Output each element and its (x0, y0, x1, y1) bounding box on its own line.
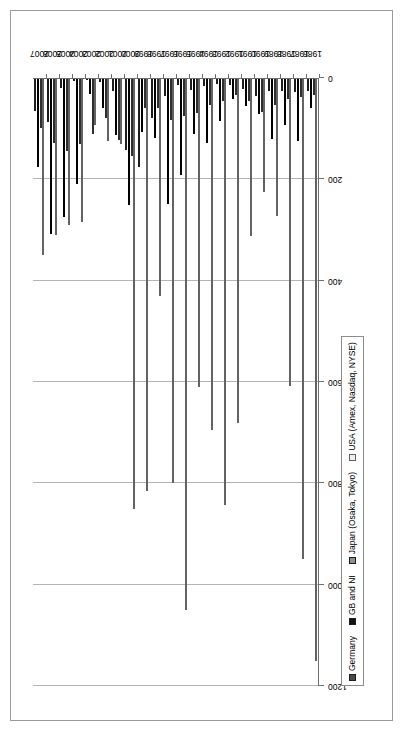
bar-usa-amex-nasdaq-nyse-1993 (224, 78, 226, 505)
bar-usa-amex-nasdaq-nyse-2003 (94, 78, 96, 125)
category-tick (189, 74, 190, 78)
bar-group (176, 78, 189, 686)
bar-usa-amex-nasdaq-nyse-2001 (120, 78, 122, 144)
value-tick (319, 482, 324, 483)
category-axis-line (33, 78, 319, 79)
legend-label: Japan (Osaka, Tokyo) (348, 472, 357, 555)
category-tick (241, 74, 242, 78)
bar-usa-amex-nasdaq-nyse-1999 (146, 78, 148, 491)
category-tick (306, 74, 307, 78)
value-tick-label: 0 (328, 74, 368, 83)
bar-usa-amex-nasdaq-nyse-2007 (42, 78, 44, 255)
legend-label: USA (Amex, Nasdaq, NYSE) (348, 342, 357, 451)
legend-swatch-icon (349, 618, 356, 625)
legend-label: GB and NI (348, 575, 357, 615)
value-tick-label: 400 (328, 277, 368, 286)
category-tick (319, 74, 320, 78)
bar-group (189, 78, 202, 686)
bar-group (150, 78, 163, 686)
legend-item-gb-and-ni: GB and NI (348, 575, 357, 625)
value-tick (319, 381, 324, 382)
chart-legend: GermanyGB and NIJapan (Osaka, Tokyo)USA … (341, 336, 364, 686)
category-tick (267, 74, 268, 78)
value-tick (319, 584, 324, 585)
bar-usa-amex-nasdaq-nyse-2006 (55, 78, 57, 235)
value-tick-label: 200 (328, 175, 368, 184)
bar-group (280, 78, 293, 686)
category-tick (228, 74, 229, 78)
category-tick (215, 74, 216, 78)
value-tick (319, 685, 324, 686)
bar-usa-amex-nasdaq-nyse-1987 (302, 78, 304, 559)
category-tick (163, 74, 164, 78)
bar-usa-amex-nasdaq-nyse-2000 (133, 78, 135, 509)
legend-item-usa-amex-nasdaq-nyse: USA (Amex, Nasdaq, NYSE) (348, 342, 357, 461)
legend-swatch-icon (349, 674, 356, 681)
bar-group (293, 78, 306, 686)
category-tick (150, 74, 151, 78)
bar-group (215, 78, 228, 686)
category-tick (293, 74, 294, 78)
bar-group (59, 78, 72, 686)
category-tick (72, 74, 73, 78)
bar-group (267, 78, 280, 686)
bar-usa-amex-nasdaq-nyse-1995 (198, 78, 200, 387)
plot-area: 020040060080010001200 198619871988198919… (33, 78, 319, 686)
legend-label: Germany (348, 636, 357, 671)
bar-group (124, 78, 137, 686)
bar-group (46, 78, 59, 686)
category-label-2007: 2007 (22, 49, 56, 58)
value-axis-line (318, 78, 319, 686)
chart-area: 020040060080010001200 198619871988198919… (11, 11, 405, 733)
bar-group (33, 78, 46, 686)
bar-group (163, 78, 176, 686)
legend-swatch-icon (349, 557, 356, 564)
category-tick (111, 74, 112, 78)
value-tick (319, 280, 324, 281)
bar-usa-amex-nasdaq-nyse-1992 (237, 78, 239, 423)
bar-group (98, 78, 111, 686)
category-tick (124, 74, 125, 78)
bar-usa-amex-nasdaq-nyse-1989 (276, 78, 278, 216)
category-tick (137, 74, 138, 78)
rotated-chart-wrapper: 020040060080010001200 198619871988198919… (11, 11, 405, 733)
category-tick (202, 74, 203, 78)
legend-item-japan-osaka-tokyo: Japan (Osaka, Tokyo) (348, 472, 357, 565)
bar-group (228, 78, 241, 686)
bar-group (202, 78, 215, 686)
bar-usa-amex-nasdaq-nyse-2004 (81, 78, 83, 222)
bar-usa-amex-nasdaq-nyse-1991 (250, 78, 252, 236)
value-tick (319, 178, 324, 179)
bar-usa-amex-nasdaq-nyse-1996 (185, 78, 187, 610)
category-tick (280, 74, 281, 78)
legend-swatch-icon (349, 454, 356, 461)
bar-group (254, 78, 267, 686)
bar-usa-amex-nasdaq-nyse-2002 (107, 78, 109, 141)
bar-usa-amex-nasdaq-nyse-1997 (172, 78, 174, 483)
bar-group (137, 78, 150, 686)
bar-usa-amex-nasdaq-nyse-1990 (263, 78, 265, 192)
bar-usa-amex-nasdaq-nyse-2005 (68, 78, 70, 225)
bar-usa-amex-nasdaq-nyse-1986 (315, 78, 317, 661)
bar-group (111, 78, 124, 686)
category-tick (46, 74, 47, 78)
bar-group (241, 78, 254, 686)
chart-page-frame: 020040060080010001200 198619871988198919… (10, 10, 393, 721)
legend-item-germany: Germany (348, 636, 357, 681)
bar-usa-amex-nasdaq-nyse-1998 (159, 78, 161, 296)
bar-usa-amex-nasdaq-nyse-1994 (211, 78, 213, 430)
category-tick (254, 74, 255, 78)
category-tick (85, 74, 86, 78)
bar-group (72, 78, 85, 686)
category-tick (59, 74, 60, 78)
bar-group (85, 78, 98, 686)
category-tick (98, 74, 99, 78)
category-tick (176, 74, 177, 78)
bar-usa-amex-nasdaq-nyse-1988 (289, 78, 291, 386)
